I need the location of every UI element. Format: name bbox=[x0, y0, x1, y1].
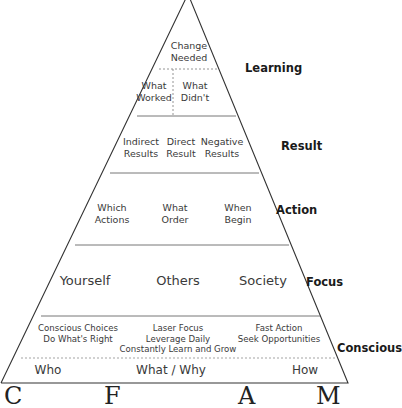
cell-how: How bbox=[292, 363, 318, 377]
level-label-conscious: Conscious bbox=[337, 341, 402, 355]
cell-text: Fast Action Seek Opportunities bbox=[238, 323, 320, 344]
cell-who: Who bbox=[35, 363, 62, 377]
cell-conscious-choices: Conscious Choices Do What's Right bbox=[38, 323, 118, 344]
cell-indirect-results: Indirect Results bbox=[123, 136, 159, 159]
cutoff-letter: F bbox=[104, 384, 121, 408]
cutoff-letter: M bbox=[316, 384, 341, 408]
cell-text: Negative Results bbox=[201, 136, 244, 159]
cell-text: What Didn't bbox=[181, 80, 209, 103]
cell-negative-results: Negative Results bbox=[201, 136, 244, 159]
cell-text: What Order bbox=[162, 202, 189, 225]
cutoff-letter: A bbox=[238, 384, 255, 408]
cell-society: Society bbox=[239, 273, 287, 288]
cell-what-worked: What Worked bbox=[136, 80, 172, 103]
cell-text: Which Actions bbox=[95, 202, 130, 225]
cell-what-order: What Order bbox=[162, 202, 189, 225]
cell-text: When Begin bbox=[224, 202, 251, 225]
cell-text: Indirect Results bbox=[123, 136, 159, 159]
cell-text: What Worked bbox=[136, 80, 172, 103]
cell-text: Conscious Choices Do What's Right bbox=[38, 323, 118, 344]
cell-what-didnt: What Didn't bbox=[181, 80, 209, 103]
cell-which-actions: Which Actions bbox=[95, 202, 130, 225]
cutoff-letter: C bbox=[4, 384, 22, 408]
cell-when-begin: When Begin bbox=[224, 202, 251, 225]
cell-laser-focus: Laser Focus Leverage Daily Constantly Le… bbox=[120, 323, 237, 355]
cell-direct-result: Direct Result bbox=[166, 136, 195, 159]
cell-text: Change Needed bbox=[171, 40, 208, 63]
cell-text: Laser Focus Leverage Daily Constantly Le… bbox=[120, 323, 237, 355]
cell-yourself: Yourself bbox=[60, 273, 111, 288]
level-label-focus: Focus bbox=[306, 275, 343, 289]
level-label-result: Result bbox=[281, 139, 322, 153]
cell-fast-action: Fast Action Seek Opportunities bbox=[238, 323, 320, 344]
cell-change-needed: Change Needed bbox=[171, 40, 208, 63]
level-label-action: Action bbox=[276, 203, 317, 217]
cell-text: Direct Result bbox=[166, 136, 195, 159]
level-label-learning: Learning bbox=[245, 61, 302, 75]
cell-others: Others bbox=[156, 273, 200, 288]
cell-what-why: What / Why bbox=[136, 363, 206, 377]
